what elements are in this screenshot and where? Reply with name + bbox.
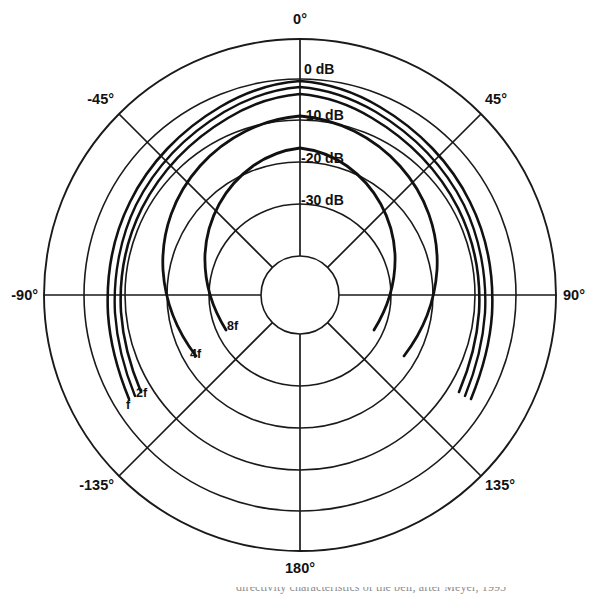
- angle-label-135: 135°: [485, 477, 515, 493]
- figure-caption-strip: directivity characteristics of the bell,…: [0, 587, 597, 596]
- polar-plot-figure: 0° 45° 90° 135° 180° -135° -90° -45° 0 d…: [0, 0, 597, 596]
- angle-tick-labels: 0° 45° 90° 135° 180° -135° -90° -45°: [11, 11, 585, 576]
- db-label-0: 0 dB: [304, 61, 334, 77]
- angle-label-minus90: -90°: [11, 287, 38, 303]
- db-label-minus30: -30 dB: [301, 192, 344, 208]
- ring-center-circle: [261, 256, 339, 334]
- curve-label-4f: 4f: [190, 347, 202, 361]
- spoke-45: [328, 114, 481, 267]
- angle-label-180: 180°: [285, 560, 315, 576]
- curve-label-8f: 8f: [227, 319, 239, 333]
- spoke-minus45: [119, 114, 272, 267]
- db-label-minus10: -10 dB: [301, 107, 344, 123]
- angle-label-0: 0°: [293, 11, 307, 27]
- curve-label-2f: 2f: [136, 386, 148, 400]
- angle-label-minus45: -45°: [87, 91, 114, 107]
- db-label-minus20: -20 dB: [301, 150, 344, 166]
- angle-label-45: 45°: [485, 91, 507, 107]
- angle-label-90: 90°: [563, 287, 585, 303]
- polar-chart-canvas: 0° 45° 90° 135° 180° -135° -90° -45° 0 d…: [0, 0, 597, 596]
- spoke-135: [328, 323, 481, 476]
- angle-label-minus135: -135°: [79, 477, 114, 493]
- curve-label-f: f: [126, 398, 131, 412]
- figure-caption: directivity characteristics of the bell,…: [236, 587, 506, 595]
